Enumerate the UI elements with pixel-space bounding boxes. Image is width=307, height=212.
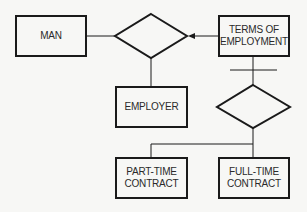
entity-terms-of-employment: TERMS OF EMPLOYMENT: [218, 15, 290, 57]
entity-terms-label-line2: EMPLOYMENT: [220, 36, 288, 48]
relationship-diamond-employment: [115, 14, 187, 58]
entity-employer-label: EMPLOYER: [125, 101, 179, 113]
entity-part-time-label-line1: PART-TIME: [126, 166, 177, 178]
entity-man-label: MAN: [40, 30, 62, 42]
arrowhead-icon: [188, 33, 195, 39]
relationship-diamond-contract-type: [217, 85, 290, 128]
entity-employer: EMPLOYER: [115, 86, 188, 128]
entity-full-time-contract: FULL-TIME CONTRACT: [218, 157, 290, 199]
entity-man: MAN: [15, 15, 87, 57]
entity-part-time-contract: PART-TIME CONTRACT: [115, 157, 188, 199]
entity-full-time-label-line2: CONTRACT: [227, 178, 281, 190]
entity-part-time-label-line2: CONTRACT: [125, 178, 179, 190]
entity-full-time-label-line1: FULL-TIME: [229, 166, 279, 178]
entity-terms-label-line1: TERMS OF: [229, 24, 279, 36]
